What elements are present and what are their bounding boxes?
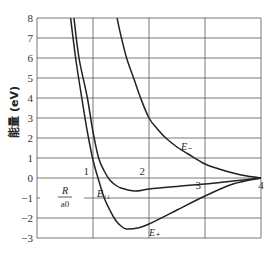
- x-tick-label: 4: [258, 179, 264, 191]
- x-axis-label-numerator: R: [61, 185, 68, 196]
- y-tick-label: −2: [21, 212, 33, 224]
- y-tick-label: 0: [28, 172, 34, 184]
- y-tick-label: 1: [28, 152, 34, 164]
- y-tick-label: −1: [21, 192, 33, 204]
- x-tick-label: 1: [84, 165, 90, 177]
- label-e-minus: E₋: [180, 141, 193, 152]
- y-tick-label: 2: [28, 132, 34, 144]
- y-tick-label: 3: [28, 112, 34, 124]
- y-tick-label: 4: [28, 92, 34, 104]
- x-axis-label: R a0: [40, 185, 84, 209]
- y-tick-label: 5: [28, 72, 34, 84]
- label-e-11: E₁₁: [96, 188, 110, 199]
- x-axis-label-denominator: a0: [61, 199, 70, 209]
- label-e-plus: E₊: [148, 227, 161, 238]
- y-tick-labels: 876543210−1−2−3: [21, 12, 33, 244]
- y-tick-label: 7: [28, 32, 34, 44]
- y-tick-label: 8: [28, 12, 34, 24]
- x-tick-label: 2: [140, 165, 146, 177]
- y-tick-label: 6: [28, 52, 34, 64]
- energy-chart: 876543210−1−2−3 1234 能量 (eV) R a0 E₋ E₁₁…: [0, 0, 272, 261]
- y-tick-label: −3: [21, 232, 33, 244]
- y-axis-label: 能量 (eV): [7, 86, 21, 138]
- curve-e11: [74, 18, 261, 191]
